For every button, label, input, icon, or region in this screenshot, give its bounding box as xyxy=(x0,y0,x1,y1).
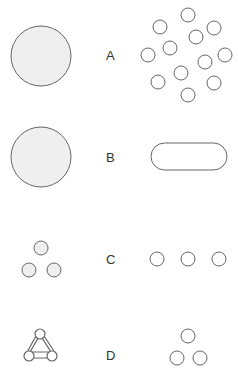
row-a-large-circle xyxy=(11,26,71,86)
label-b: B xyxy=(106,150,115,165)
row-d-connected-triangle xyxy=(24,329,57,361)
label-d: D xyxy=(106,348,115,363)
row-d-triangle-circles xyxy=(170,329,207,365)
row-b-large-circle xyxy=(11,127,71,187)
row-c-filled-triangle xyxy=(22,241,61,277)
row-b-stadium xyxy=(151,143,227,170)
label-a: A xyxy=(106,48,115,63)
diagram-canvas xyxy=(0,0,238,372)
label-c: C xyxy=(106,252,115,267)
row-c-row-circles xyxy=(150,252,226,266)
row-a-scattered-circles xyxy=(141,8,232,102)
